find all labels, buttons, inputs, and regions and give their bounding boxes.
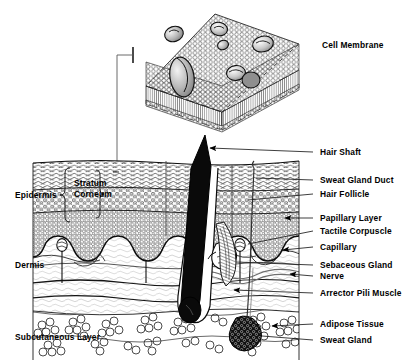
label-capillary: Capillary <box>320 242 357 252</box>
label-nerve: Nerve <box>320 271 344 281</box>
label-arrector-pili-muscle: Arrector Pili Muscle <box>320 288 402 298</box>
label-hair-shaft: Hair Shaft <box>320 147 361 157</box>
cell-membrane-inset <box>146 14 299 132</box>
skin-anatomy-figure: Cell Membrane Hair Shaft Sweat Gland Duc… <box>0 0 419 364</box>
label-stratum-corneum-line1: Stratum <box>74 178 107 189</box>
label-sweat-gland-duct: Sweat Gland Duct <box>320 175 394 185</box>
label-papillary-layer: Papillary Layer <box>320 213 382 223</box>
label-subcutaneous-layer: Subcutaneous Layer <box>15 332 100 342</box>
label-epidermis: Epidermis <box>15 190 57 200</box>
label-dermis: Dermis <box>15 260 44 270</box>
label-cell-membrane: Cell Membrane <box>322 40 384 50</box>
label-adipose-tissue: Adipose Tissue <box>320 319 384 329</box>
label-sweat-gland: Sweat Gland <box>320 335 372 345</box>
inset-leader-line <box>117 47 133 172</box>
label-sebaceous-gland: Sebaceous Gland <box>320 260 393 270</box>
label-tactile-corpuscle: Tactile Corpuscle <box>320 226 392 236</box>
label-stratum-corneum-line2: Corneum <box>74 189 112 200</box>
label-hair-follicle: Hair Follicle <box>320 189 369 199</box>
